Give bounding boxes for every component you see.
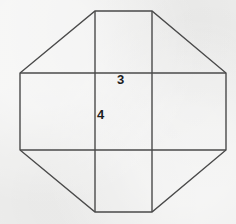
- octagon-diagram: [0, 0, 236, 224]
- octagon-outline: [20, 11, 226, 212]
- dimension-label-top: 3: [117, 73, 124, 86]
- dimension-label-left: 4: [97, 108, 104, 121]
- geometry-figure: 3 4: [0, 0, 236, 224]
